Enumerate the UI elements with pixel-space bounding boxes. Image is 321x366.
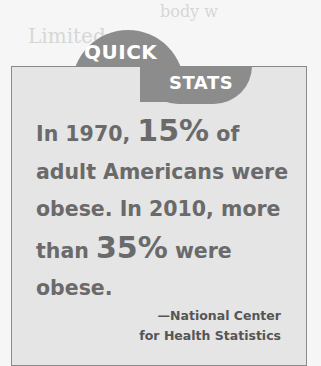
source-line-2: for Health Statistics	[139, 326, 281, 346]
quick-label: QUICK	[84, 40, 157, 64]
stats-label: STATS	[169, 72, 233, 93]
stat-highlight-1970: 15%	[137, 113, 209, 148]
source-attribution: —National Center for Health Statistics	[139, 306, 281, 346]
badge-mask	[12, 67, 140, 103]
background-text: body w	[160, 2, 218, 21]
stat-text: In 1970, 15% of adult Americans were obe…	[36, 112, 296, 308]
source-line-1: —National Center	[139, 306, 281, 326]
stat-part-1: In 1970,	[36, 122, 137, 146]
stat-highlight-2010: 35%	[96, 230, 168, 265]
